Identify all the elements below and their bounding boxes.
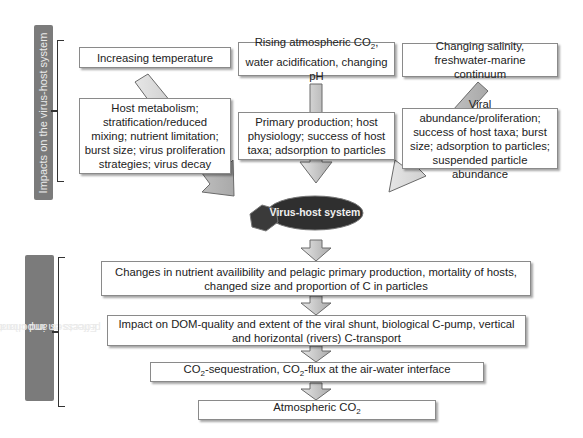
impact-temperature: Host metabolism; stratification/reduced … (79, 98, 231, 174)
brace-tick (52, 331, 58, 333)
driver-co2: Rising atmospheric CO2, water acidificat… (238, 42, 395, 76)
effect-sequestration: CO2-sequestration, CO2-flux at the air-w… (150, 362, 484, 382)
effect-dom: Impact on DOM-quality and extent of the … (107, 315, 526, 346)
side-label-text: Impacts on the virus-host system (37, 32, 51, 193)
effect-nutrients: Changes in nutrient availibility and pel… (101, 261, 531, 296)
brace-top (57, 40, 64, 182)
driver-temperature: Increasing temperature (79, 47, 231, 68)
brace-tick (51, 110, 57, 112)
virus-host-label: Virus-host system (268, 206, 362, 218)
effect-atmospheric-co2: Atmospheric CO2 (198, 400, 436, 420)
side-label-effects: Effects on important globalprocesses and… (25, 255, 54, 401)
driver-salinity: Changing salinity, freshwater-marine con… (402, 43, 558, 77)
impact-salinity: Viral abundance/proliferation; success o… (402, 108, 558, 169)
impact-co2: Primary production; host physiology; suc… (238, 112, 395, 160)
side-label-text: Effects on important globalprocesses and… (26, 263, 54, 393)
brace-bottom (58, 257, 65, 407)
side-label-impacts: Impacts on the virus-host system (34, 25, 53, 200)
